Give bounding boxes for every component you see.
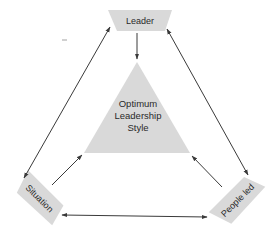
people-led-node: People led (209, 171, 267, 229)
center-node: Optimum Leadership Style (84, 62, 190, 153)
center-label-line-2: Leadership (114, 110, 161, 121)
arrow-leader-situation (24, 27, 110, 178)
arrow-people-led-to-center (192, 156, 222, 187)
arrow-situation-to-center (52, 155, 82, 185)
leadership-diagram: Optimum Leadership Style Leader Situatio… (0, 0, 277, 235)
leader-node: Leader (108, 10, 172, 31)
arrow-situation-people-led (62, 215, 207, 217)
arrow-leader-people-led (167, 29, 248, 175)
center-label-line-1: Optimum (119, 98, 158, 109)
leader-label: Leader (126, 16, 154, 26)
situation-node: Situation (11, 170, 68, 227)
center-label-line-3: Style (127, 122, 148, 133)
